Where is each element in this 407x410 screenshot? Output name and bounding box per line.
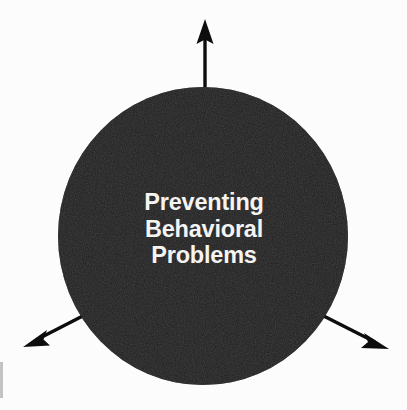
scan-edge-artifact bbox=[0, 362, 3, 398]
hub-circle-group bbox=[58, 87, 348, 385]
hub-circle-texture bbox=[58, 87, 348, 385]
diagram-canvas: Preventing Behavioral Problems bbox=[0, 0, 407, 410]
hub-and-spoke-diagram bbox=[0, 0, 407, 410]
